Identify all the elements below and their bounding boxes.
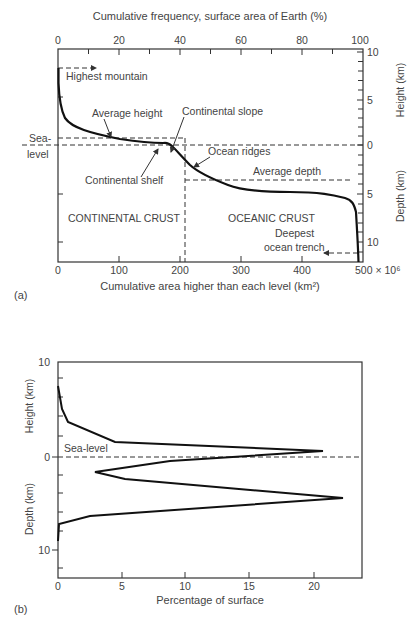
label-sea-level-b: Sea-level [64,442,108,454]
bottom-tick-500: 500 × 10⁶ [355,264,401,276]
panel-label-a: (a) [14,289,27,301]
y-tick-0: 0 [44,451,50,463]
y-label-depth: Depth (km) [23,483,35,535]
top-axis-title: Cumulative frequency, surface area of Ea… [93,10,328,22]
label-deepest-1: Deepest [275,227,314,239]
bottom-tick-400: 400 [293,264,311,276]
left-axis-ticks-a [58,97,63,242]
label-oceanic-crust: OCEANIC CRUST [228,212,316,224]
right-tick-5-height: 5 [367,94,373,106]
panel-label-b: (b) [14,603,27,615]
right-label-height: Height (km) [394,63,406,117]
x-axis-title-b: Percentage of surface [156,594,264,606]
x-tick-5: 5 [119,580,125,592]
top-tick-40: 40 [174,34,186,46]
label-continental-crust: CONTINENTAL CRUST [68,212,181,224]
x-tick-20: 20 [308,580,320,592]
label-highest-mountain: Highest mountain [66,70,148,82]
top-tick-60: 60 [235,34,247,46]
x-tick-15: 15 [243,580,255,592]
bottom-axis-ticks [119,256,302,262]
right-label-depth: Depth (km) [394,170,406,222]
label-continental-slope: Continental slope [182,105,263,117]
top-tick-20: 20 [113,34,125,46]
bottom-tick-100: 100 [110,264,128,276]
label-average-height: Average height [92,107,163,119]
x-tick-0: 0 [55,580,61,592]
bottom-tick-200: 200 [171,264,189,276]
label-average-depth: Average depth [253,165,321,177]
label-sea-level-1: Sea- [29,132,52,144]
label-deepest-2: ocean trench [264,241,325,253]
label-sea-level-2: level [27,148,49,160]
x-axis-ticks-b [122,572,314,578]
bottom-tick-0: 0 [55,264,61,276]
top-tick-80: 80 [296,34,308,46]
top-tick-100: 100 [351,34,369,46]
right-tick-10-depth: 10 [367,236,379,248]
top-tick-0: 0 [55,34,61,46]
x-tick-10: 10 [179,580,191,592]
top-axis-ticks [89,49,333,55]
y-label-height: Height (km) [23,379,35,433]
chart-a: Cumulative frequency, surface area of Ea… [14,10,406,301]
figure: Cumulative frequency, surface area of Ea… [0,0,415,627]
y-tick-10-height: 10 [38,356,50,368]
right-tick-10-height: 10 [367,46,379,58]
label-ocean-ridges: Ocean ridges [208,145,270,157]
bottom-axis-title: Cumulative area higher than each level (… [100,280,320,292]
right-axis-ticks [357,52,363,252]
elevation-distribution-curve [58,386,343,541]
bottom-tick-300: 300 [232,264,250,276]
label-continental-shelf: Continental shelf [85,174,163,186]
right-tick-0: 0 [367,139,373,151]
right-tick-5-depth: 5 [367,188,373,200]
chart-b: 10 0 10 Height (km) Depth (km) 0 5 10 15… [14,356,362,615]
y-tick-10-depth: 10 [38,544,50,556]
